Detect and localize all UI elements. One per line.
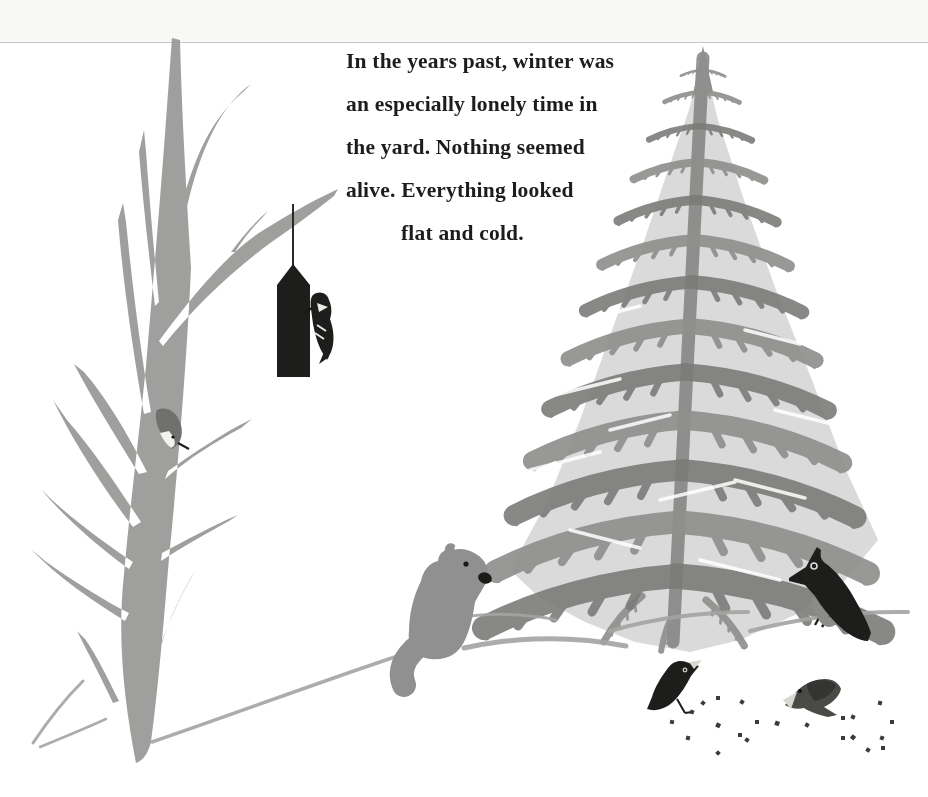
book-page: In the years past, winter was an especia… [0, 0, 928, 797]
ground-bird-left-leg [677, 699, 692, 713]
snow-lines [33, 612, 908, 747]
nuthatch-beak [178, 443, 189, 449]
woodpecker-body [311, 293, 334, 360]
ground-bird-left-body [647, 661, 699, 710]
story-line: alive. Everything looked [346, 169, 666, 212]
bare-tree [31, 38, 338, 763]
ground-bird-right [783, 679, 841, 717]
story-line: In the years past, winter was [346, 40, 666, 83]
story-line: an especially lonely time in [346, 83, 666, 126]
story-line: the yard. Nothing seemed [346, 126, 666, 169]
squirrel-body [409, 549, 488, 659]
ground-bird-left [647, 660, 702, 713]
feeder-body [277, 264, 310, 377]
ground-bird-right-eye [798, 689, 802, 693]
squirrel-eye [463, 561, 468, 566]
story-line: flat and cold. [401, 212, 666, 255]
seeds [670, 696, 894, 756]
nuthatch-eye [171, 435, 174, 438]
story-text: In the years past, winter was an especia… [346, 40, 666, 255]
